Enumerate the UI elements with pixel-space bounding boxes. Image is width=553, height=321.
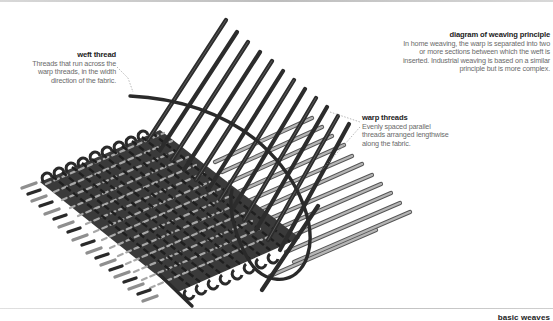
weft-thread-callout: weft thread Threads that run across the … [20,51,116,85]
section-title-basic-weaves: basic weaves [498,313,550,321]
warp-threads-callout: warp threads Evenly spaced parallel thre… [362,114,450,148]
warp-threads-description: Evenly spaced parallel threads arranged … [362,123,450,149]
weaving-principle-caption: diagram of weaving principle In home wea… [400,31,550,74]
bottom-divider [0,308,553,309]
diagram-description: In home weaving, the warp is separated i… [400,40,550,74]
weft-thread-description: Threads that run across the warp threads… [20,60,116,86]
